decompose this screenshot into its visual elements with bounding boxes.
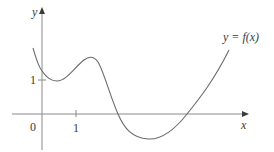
- curve-label: y = f(x): [223, 31, 259, 43]
- origin-label: 0: [30, 121, 36, 133]
- x-axis-arrow-icon: [242, 111, 249, 117]
- y-axis-label: y: [32, 6, 37, 18]
- curve-f: [33, 48, 229, 139]
- x-tick-label: 1: [73, 122, 79, 134]
- function-graph: [0, 0, 274, 152]
- y-tick-label: 1: [30, 74, 36, 86]
- x-axis-label: x: [241, 119, 246, 131]
- y-axis-arrow-icon: [39, 7, 45, 14]
